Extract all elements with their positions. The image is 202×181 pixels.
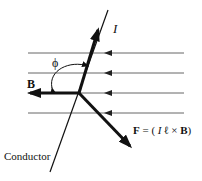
force-vector-arrow bbox=[79, 93, 130, 146]
field-arrow-icon bbox=[104, 50, 112, 56]
current-vector-arrow bbox=[79, 30, 98, 93]
field-arrow-icon bbox=[104, 110, 112, 116]
force-label-close: ) bbox=[187, 124, 191, 137]
force-label-l: ℓ bbox=[162, 124, 172, 136]
field-label: B bbox=[27, 77, 35, 91]
magnetic-force-diagram: I ϕ B F = ( I ℓ × B) Conductor bbox=[0, 0, 202, 181]
field-arrow-icon bbox=[104, 90, 112, 96]
force-label-eq: = ( bbox=[140, 124, 158, 137]
conductor-label: Conductor bbox=[4, 150, 51, 162]
force-label: F = ( I ℓ × B) bbox=[133, 124, 191, 137]
current-label: I bbox=[112, 21, 118, 36]
field-arrow-icon bbox=[104, 70, 112, 76]
angle-label: ϕ bbox=[52, 56, 58, 70]
